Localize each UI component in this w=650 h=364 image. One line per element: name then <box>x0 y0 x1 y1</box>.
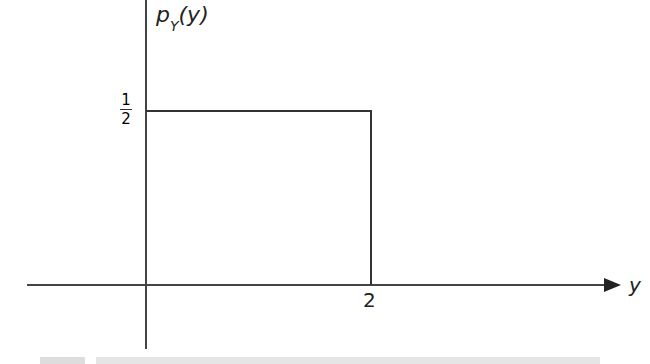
pdf-plot <box>0 0 650 364</box>
y-tick-half: 1 2 <box>118 92 134 127</box>
x-axis-label: y <box>629 273 641 297</box>
y-axis-label: pY(y) <box>156 2 209 30</box>
x-tick-2: 2 <box>363 288 376 312</box>
x-axis-arrow-icon <box>604 278 621 292</box>
y-tick-denominator: 2 <box>121 110 131 128</box>
density-curve <box>146 111 371 285</box>
y-tick-numerator: 1 <box>121 91 131 109</box>
figure-caption-cropped <box>40 357 600 364</box>
